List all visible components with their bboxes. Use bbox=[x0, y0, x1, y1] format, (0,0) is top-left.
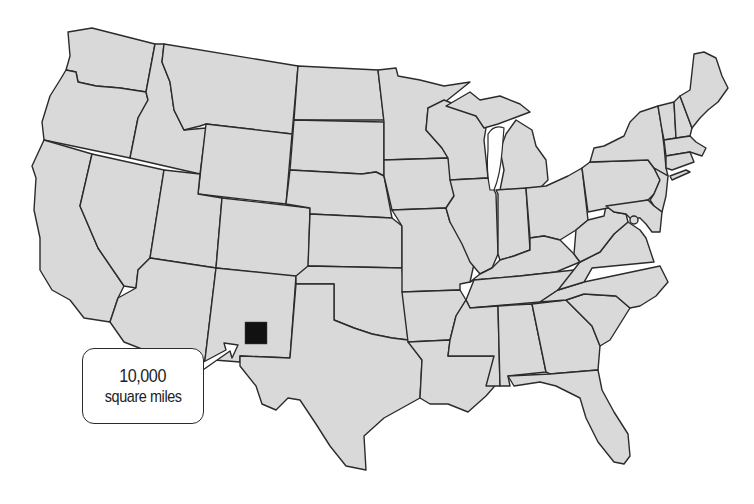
state-new-mexico bbox=[204, 268, 296, 368]
state-connecticut bbox=[666, 152, 694, 170]
state-indiana bbox=[496, 188, 530, 260]
state-colorado bbox=[216, 198, 310, 278]
state-south-dakota bbox=[290, 120, 384, 176]
callout-box: 10,000 square miles bbox=[82, 348, 204, 424]
callout-value: 10,000 bbox=[120, 365, 167, 387]
area-marker-square bbox=[245, 322, 267, 344]
state-wyoming bbox=[198, 124, 292, 204]
washington-dc-marker bbox=[630, 216, 638, 224]
us-map bbox=[0, 0, 754, 504]
state-michigan-lower bbox=[500, 120, 548, 190]
state-kansas bbox=[308, 214, 402, 268]
callout-unit: square miles bbox=[105, 387, 182, 407]
state-florida bbox=[508, 370, 630, 464]
long-island bbox=[670, 170, 690, 180]
state-montana bbox=[162, 44, 298, 134]
state-maine bbox=[680, 52, 728, 128]
state-north-dakota bbox=[294, 66, 384, 120]
